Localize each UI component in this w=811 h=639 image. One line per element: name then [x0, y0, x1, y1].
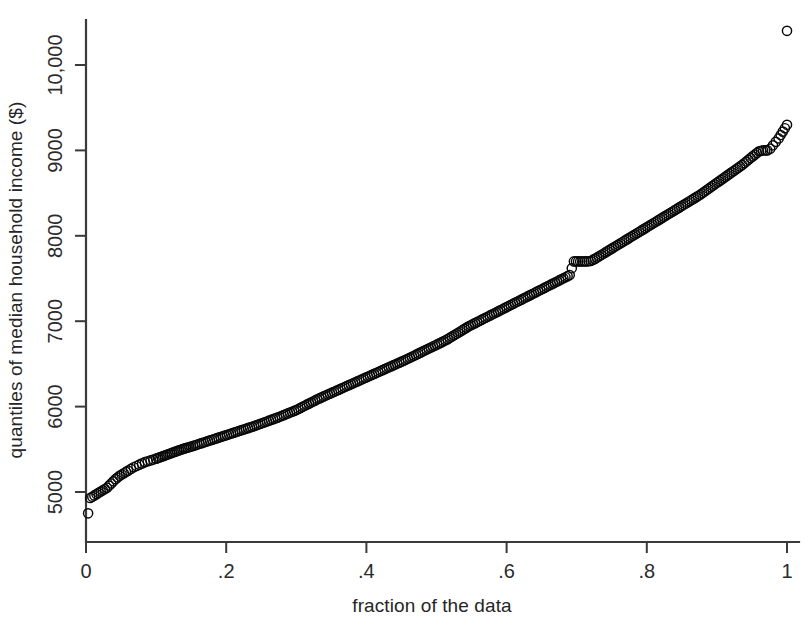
x-axis-tick-labels: 0.2.4.6.81 — [80, 560, 792, 582]
chart-canvas: 5000600070008000900010,000 0.2.4.6.81 qu… — [0, 0, 811, 639]
y-tick-label: 9000 — [44, 128, 66, 173]
x-tick-label: .8 — [638, 560, 655, 582]
y-tick-label: 5000 — [44, 470, 66, 515]
quantile-plot-figure: 5000600070008000900010,000 0.2.4.6.81 qu… — [0, 0, 811, 639]
y-axis-title: quantiles of median household income ($) — [5, 102, 26, 459]
y-axis-tick-labels: 5000600070008000900010,000 — [44, 34, 66, 514]
x-tick-label: .2 — [218, 560, 235, 582]
y-tick-label: 6000 — [44, 384, 66, 429]
x-axis-title: fraction of the data — [352, 595, 512, 616]
x-tick-label: .4 — [358, 560, 375, 582]
x-tick-label: 0 — [80, 560, 91, 582]
x-tick-label: .6 — [498, 560, 515, 582]
x-tick-label: 1 — [781, 560, 792, 582]
y-axis-ticks — [75, 65, 86, 492]
y-tick-label: 8000 — [44, 214, 66, 258]
y-tick-label: 10,000 — [44, 34, 66, 95]
data-point-group — [84, 26, 792, 518]
data-point — [84, 509, 93, 518]
axis-frame — [86, 20, 799, 542]
x-axis-ticks — [86, 542, 787, 553]
y-tick-label: 7000 — [44, 299, 66, 344]
data-point — [782, 26, 791, 35]
